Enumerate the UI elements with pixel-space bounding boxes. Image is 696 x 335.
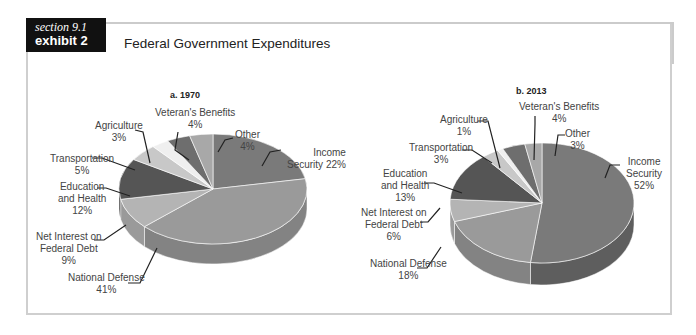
label-b-income: IncomeSecurity52% bbox=[626, 156, 662, 192]
label-a-income: IncomeSecurity 22% bbox=[287, 147, 346, 171]
label-a-transportation: Transportation5% bbox=[50, 153, 114, 177]
label-a-education: Educationand Health12% bbox=[58, 181, 106, 217]
label-a-interest: Net Interest onFederal Debt9% bbox=[36, 231, 102, 267]
label-a-veterans: Veteran's Benefits4% bbox=[155, 107, 235, 131]
label-b-education: Educationand Health13% bbox=[381, 168, 429, 204]
label-b-transportation: Transportation3% bbox=[409, 142, 473, 166]
label-b-other: Other3% bbox=[565, 128, 590, 152]
pie-1970 bbox=[119, 134, 307, 264]
label-a-agriculture: Agriculture3% bbox=[95, 120, 143, 144]
label-a-defense: National Defense41% bbox=[68, 272, 145, 296]
label-a-other: Other4% bbox=[235, 129, 260, 153]
label-b-defense: National Defense18% bbox=[370, 258, 447, 282]
label-b-interest: Net Interest onFederal Debt6% bbox=[361, 207, 427, 243]
label-b-agriculture: Agriculture1% bbox=[440, 114, 488, 138]
label-b-veterans: Veteran's Benefits4% bbox=[519, 101, 599, 125]
pie-2013 bbox=[450, 143, 634, 285]
